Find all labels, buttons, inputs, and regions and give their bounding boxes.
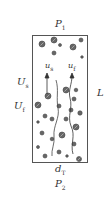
fluid-velocity-label: uf: [68, 61, 75, 74]
solid-velocity-arrow-icon: [45, 73, 49, 94]
fluid-superficial-velocity-label: Uf: [14, 101, 25, 115]
solid-superficial-velocity-label: Us: [17, 77, 29, 91]
column-outline: [33, 36, 88, 163]
top-pressure-label: P1: [55, 19, 66, 33]
length-label: L: [97, 88, 104, 98]
solid-velocity-label: us: [45, 61, 53, 74]
diameter-label: dT: [55, 164, 65, 178]
bottom-pressure-label: P2: [55, 179, 66, 193]
particles: [35, 37, 83, 162]
